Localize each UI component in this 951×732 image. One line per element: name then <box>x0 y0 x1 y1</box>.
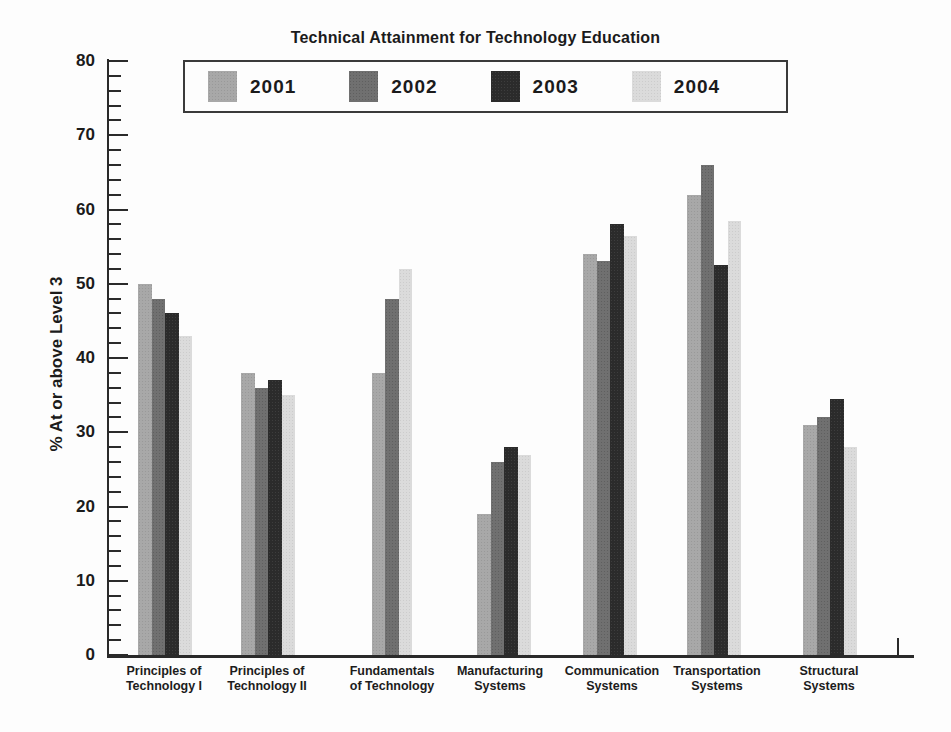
bar-group-1 <box>105 61 225 655</box>
bar-group-7 <box>770 61 890 655</box>
bar-2003-category-7 <box>830 399 844 655</box>
bar-2004-category-1 <box>179 336 193 655</box>
bar-2003-category-1 <box>165 313 179 655</box>
bar-2001-category-2 <box>241 373 255 655</box>
bar-2001-category-4 <box>477 514 491 655</box>
x-category-label-7: StructuralSystems <box>761 664 897 694</box>
chart-title: Technical Attainment for Technology Educ… <box>0 29 951 47</box>
bar-2001-category-6 <box>687 195 701 655</box>
bar-2002-category-2 <box>255 388 269 655</box>
bar-2002-category-4 <box>491 462 505 655</box>
bar-2003-category-5 <box>610 224 624 655</box>
bar-group-2 <box>208 61 328 655</box>
bar-2002-category-7 <box>817 417 831 655</box>
bar-chart: Technical Attainment for Technology Educ… <box>0 0 951 732</box>
bar-2003-category-6 <box>714 265 728 655</box>
x-axis-end-tick <box>897 638 899 655</box>
bar-group-5 <box>550 61 670 655</box>
y-tick-label-10: 10 <box>50 571 95 591</box>
x-category-label-line: Structural <box>761 664 897 679</box>
bar-2001-category-3 <box>372 373 386 655</box>
bar-group-4 <box>444 61 564 655</box>
x-category-label-2: Principles ofTechnology II <box>199 664 335 694</box>
y-tick-label-20: 20 <box>50 497 95 517</box>
y-tick-label-60: 60 <box>50 200 95 220</box>
bar-2004-category-4 <box>518 455 532 655</box>
y-tick-label-80: 80 <box>50 51 95 71</box>
x-category-label-line: Principles of <box>199 664 335 679</box>
y-tick-label-70: 70 <box>50 125 95 145</box>
bar-2002-category-6 <box>701 165 715 655</box>
bar-2002-category-1 <box>152 299 166 655</box>
bar-2004-category-3 <box>399 269 413 655</box>
bar-2002-category-3 <box>385 299 399 655</box>
bar-2001-category-5 <box>583 254 597 655</box>
bar-2003-category-4 <box>504 447 518 655</box>
x-axis-line <box>107 655 914 658</box>
x-category-label-line: Systems <box>761 679 897 694</box>
bar-2004-category-6 <box>728 221 742 655</box>
bar-2004-category-2 <box>282 395 296 655</box>
bar-group-6 <box>654 61 774 655</box>
x-category-label-line: Technology II <box>199 679 335 694</box>
bar-2004-category-5 <box>624 236 638 656</box>
y-tick-label-30: 30 <box>50 422 95 442</box>
bar-2003-category-2 <box>268 380 282 655</box>
bar-2004-category-7 <box>844 447 858 655</box>
bar-2001-category-7 <box>803 425 817 655</box>
y-tick-label-40: 40 <box>50 348 95 368</box>
y-tick-label-0: 0 <box>50 645 95 665</box>
y-tick-label-50: 50 <box>50 274 95 294</box>
bar-2002-category-5 <box>597 261 611 655</box>
bar-2001-category-1 <box>138 284 152 655</box>
bar-group-3 <box>332 61 452 655</box>
